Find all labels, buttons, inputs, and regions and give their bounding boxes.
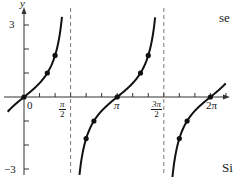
data-point xyxy=(177,136,182,141)
data-point xyxy=(45,70,50,75)
data-point xyxy=(21,94,26,99)
x-tick-label-pi: π xyxy=(114,100,120,111)
x-tick-label-pi-half: π 2 xyxy=(59,100,66,119)
data-point xyxy=(52,53,57,58)
data-point xyxy=(146,53,151,58)
cropped-text-bottom-right: Si xyxy=(222,160,233,176)
x-tick-label-0: 0 xyxy=(27,100,33,111)
axes xyxy=(4,7,230,175)
data-point xyxy=(84,136,89,141)
x-tick-label-3pi-half: 3π 2 xyxy=(151,100,162,119)
x-tick-label-2pi: 2π xyxy=(206,100,217,111)
tangent-plot xyxy=(0,0,236,177)
three-pi-half-denominator: 2 xyxy=(151,110,162,119)
pi-half-denominator: 2 xyxy=(59,110,66,119)
y-tick-label-neg3: −3 xyxy=(4,164,16,175)
data-point xyxy=(91,118,96,123)
cropped-text-top-right: se xyxy=(219,10,230,26)
y-tick-label-3: 3 xyxy=(9,19,15,30)
asymptotes xyxy=(71,8,164,175)
y-axis-label: y xyxy=(20,0,25,9)
x-axis-arrow-icon xyxy=(223,95,230,100)
data-point xyxy=(138,70,143,75)
data-point xyxy=(185,118,190,123)
